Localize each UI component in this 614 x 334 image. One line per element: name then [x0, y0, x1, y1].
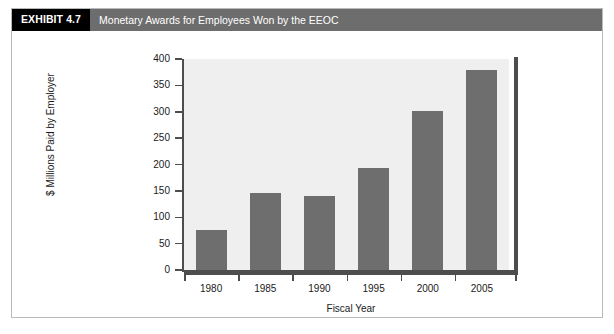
x-axis-tick-label: 1980	[181, 283, 241, 294]
x-axis-tick-label: 1990	[289, 283, 349, 294]
y-axis-tick-label: 0	[130, 265, 170, 275]
exhibit-header-bar: EXHIBIT 4.7 Monetary Awards for Employee…	[12, 9, 602, 31]
y-axis-tick-label: 200	[130, 160, 170, 170]
y-axis-line	[182, 59, 184, 272]
x-axis-tick	[347, 275, 349, 281]
x-axis-tick	[455, 275, 457, 281]
x-axis-tick-label: 1985	[235, 283, 295, 294]
y-axis-tick-label: 50	[130, 239, 170, 249]
y-axis-tick-label: 100	[130, 212, 170, 222]
bar-2005	[466, 70, 497, 270]
exhibit-title: Monetary Awards for Employees Won by the…	[90, 14, 338, 26]
plot-background	[184, 59, 509, 270]
exhibit-number-tag: EXHIBIT 4.7	[12, 9, 90, 31]
x-axis-tick	[292, 275, 294, 281]
y-axis-tick	[175, 111, 182, 113]
exhibit-frame: EXHIBIT 4.7 Monetary Awards for Employee…	[11, 8, 603, 318]
y-axis-tick	[175, 190, 182, 192]
plot-right-wall	[514, 57, 518, 275]
y-axis-tick	[175, 85, 182, 87]
x-axis-tick-label: 2000	[398, 283, 458, 294]
bar-1980	[196, 230, 227, 270]
y-axis-tick	[175, 58, 182, 60]
chart-area: $ Millions Paid by Employer 050100150200…	[12, 31, 602, 317]
y-axis-tick	[175, 243, 182, 245]
y-axis-tick	[175, 164, 182, 166]
x-axis-title: Fiscal Year	[184, 303, 518, 314]
bar-2000	[412, 111, 443, 270]
y-axis-tick-label: 350	[130, 80, 170, 90]
y-axis-title: $ Millions Paid by Employer	[45, 35, 56, 235]
y-axis-tick-label: 400	[130, 54, 170, 64]
bar-1995	[358, 168, 389, 270]
x-axis-line	[184, 270, 518, 275]
bar-1990	[304, 196, 335, 270]
x-axis-tick	[238, 275, 240, 281]
bar-1985	[250, 193, 281, 270]
x-axis-tick	[401, 275, 403, 281]
y-axis-tick	[175, 217, 182, 219]
x-axis-tick-label: 1995	[344, 283, 404, 294]
x-axis-tick	[515, 275, 517, 281]
y-axis-tick	[175, 137, 182, 139]
y-axis-tick-label: 150	[130, 186, 170, 196]
y-axis-tick-label: 250	[130, 133, 170, 143]
y-axis-tick	[175, 269, 182, 271]
y-axis-tick-label: 300	[130, 107, 170, 117]
x-axis-tick	[184, 275, 186, 281]
x-axis-tick-label: 2005	[452, 283, 512, 294]
